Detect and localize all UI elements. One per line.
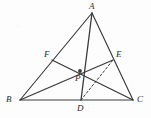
geometry-figure: ABCDEFP — [0, 0, 151, 118]
cevian-ad — [81, 13, 92, 100]
vertex-label-f: F — [44, 50, 50, 59]
vertex-label-c: C — [137, 95, 143, 104]
vertex-label-a: A — [89, 2, 95, 11]
side-ab — [20, 13, 92, 100]
geometry-canvas — [0, 0, 151, 118]
vertex-label-d: D — [77, 104, 84, 113]
vertex-label-b: B — [6, 95, 12, 104]
cevian-be — [20, 60, 113, 100]
cevian-cf — [52, 60, 133, 100]
vertex-label-p: P — [75, 74, 81, 83]
side-ac — [92, 13, 133, 100]
vertex-label-e: E — [116, 50, 122, 59]
